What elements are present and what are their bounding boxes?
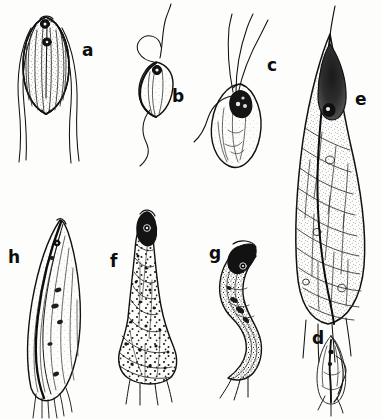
- plate-drawing: [0, 0, 382, 419]
- specimen-c: [194, 14, 268, 167]
- figure-label-f: f: [110, 253, 117, 270]
- figure-label-a: a: [82, 42, 93, 59]
- illustration-plate: a b c e h f g d: [0, 0, 382, 419]
- specimen-h: [28, 219, 81, 418]
- specimen-f: [119, 210, 177, 405]
- specimen-g: [220, 241, 262, 400]
- figure-label-e: e: [355, 91, 367, 108]
- specimen-b: [137, 4, 173, 166]
- figure-label-g: g: [209, 245, 221, 262]
- figure-label-c: c: [267, 57, 277, 74]
- figure-label-b: b: [172, 88, 184, 105]
- specimen-d: [317, 336, 346, 416]
- specimen-e: [296, 6, 365, 362]
- specimen-a: [18, 16, 79, 163]
- figure-label-d: d: [312, 330, 324, 347]
- figure-label-h: h: [8, 249, 20, 266]
